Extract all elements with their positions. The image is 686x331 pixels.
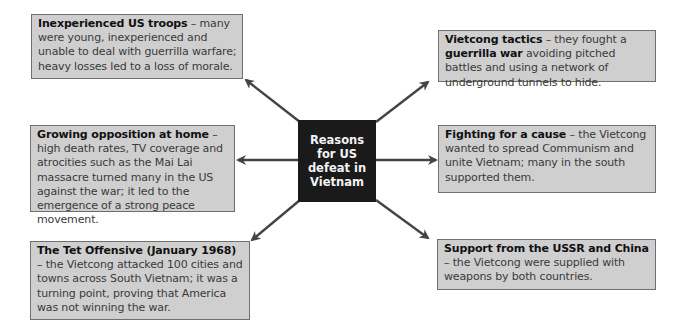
arrow-to-tactics: [376, 82, 428, 122]
reason-fighting-for-cause: Fighting for a cause – the Vietcong want…: [438, 125, 656, 193]
reason-heading: Inexperienced US troops: [38, 17, 187, 30]
central-topic-box: Reasons for US defeat in Vietnam: [298, 120, 376, 202]
reason-vietcong-tactics: Vietcong tactics – they fought a guerril…: [438, 30, 656, 82]
reason-growing-opposition: Growing opposition at home – high death …: [30, 125, 235, 212]
reason-tet-offensive: The Tet Offensive (January 1968) – the V…: [30, 241, 250, 320]
reason-heading: Growing opposition at home: [37, 128, 209, 141]
reason-inexperienced-troops: Inexperienced US troops – many were youn…: [31, 14, 243, 79]
arrow-to-support: [376, 200, 428, 238]
key-term: guerrilla war: [445, 47, 523, 60]
reason-text: – high death rates, TV coverage and atro…: [37, 128, 223, 226]
reason-heading: Fighting for a cause: [445, 128, 566, 141]
arrow-to-tet: [252, 200, 300, 240]
reason-text: – the Vietcong were supplied with weapon…: [444, 256, 625, 283]
reason-text: – they fought a: [542, 33, 626, 46]
arrow-to-troops: [246, 80, 300, 122]
central-topic-title: Reasons for US defeat in Vietnam: [302, 133, 372, 189]
reason-ussr-china-support: Support from the USSR and China – the Vi…: [437, 239, 656, 290]
reason-heading: Support from the USSR and China: [444, 242, 649, 255]
reason-heading: The Tet Offensive (January 1968): [37, 244, 236, 257]
reason-text: – the Vietcong attacked 100 cities and t…: [37, 258, 243, 314]
reason-heading: Vietcong tactics: [445, 33, 542, 46]
